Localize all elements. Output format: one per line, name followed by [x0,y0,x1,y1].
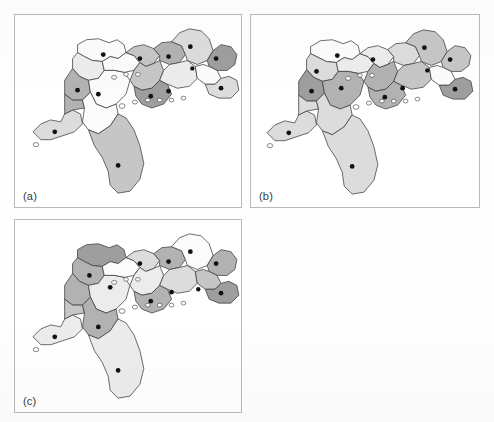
map-islet-b-7 [346,76,351,80]
figure-panel-c: (c) [14,219,242,413]
map-centroid-marker [314,69,319,74]
map-islet-c-3 [145,303,150,307]
map-centroid-marker [52,129,57,134]
map-centroid-marker [196,287,200,291]
map-centroid-marker [286,130,291,135]
map-islet-c-2 [132,305,137,309]
map-centroid-marker [188,249,193,254]
panel-label-c: (c) [23,395,36,407]
map-centroid-marker [214,261,219,266]
map-islet-c-1 [119,309,125,314]
map-islet-a-4 [157,98,162,102]
figure-panel-b: (b) [250,14,480,208]
map-centroid-marker [188,44,193,49]
panel-label-a: (a) [23,190,37,202]
map-centroid-marker [400,86,405,91]
map-islet-c-10 [33,348,39,352]
map-centroid-marker [350,164,355,169]
map-islet-c-4 [157,303,162,307]
figure-caption-strip [14,414,480,422]
map-centroid-marker [219,291,224,296]
map-islet-a-8 [124,73,129,77]
map-islet-b-3 [379,99,384,103]
map-centroid-marker [309,89,314,94]
map-centroid-marker [382,95,387,100]
map-centroid-marker [101,52,106,57]
panel-label-b: (b) [259,190,273,202]
map-centroid-marker [116,163,121,168]
map-islet-b-10 [267,144,273,148]
map-islet-c-7 [112,280,117,284]
map-islet-b-1 [353,105,359,110]
map-islet-b-8 [358,73,363,77]
map-region-b-15 [267,111,316,141]
map-centroid-marker [422,45,427,50]
map-centroid-marker [87,273,92,278]
map-centroid-marker [96,92,101,97]
map-islet-b-2 [366,101,371,105]
map-islet-c-5 [169,303,174,307]
map-centroid-marker [166,54,171,59]
map-islet-b-9 [370,73,375,77]
map-centroid-marker [425,68,429,72]
map-region-c-15 [33,315,82,345]
map-region-a-15 [33,110,82,140]
map-islet-b-4 [391,99,396,103]
map-centroid-marker [148,94,153,99]
map-centroid-marker [148,299,153,304]
map-islet-c-8 [124,278,129,282]
map-islet-c-9 [136,278,141,282]
map-islet-c-6 [181,301,186,305]
map-centroid-marker [138,56,143,61]
map-centroid-marker [453,87,458,92]
choropleth-map-a [15,15,241,207]
map-islet-b-6 [415,97,420,101]
map-centroid-marker [166,89,171,94]
map-centroid-marker [75,88,80,93]
map-centroid-marker [138,261,143,266]
map-centroid-marker [219,86,224,91]
map-centroid-marker [335,53,340,58]
map-islet-a-1 [119,104,125,109]
map-centroid-marker [116,368,121,373]
map-islet-a-6 [181,96,186,100]
map-islet-a-9 [136,73,141,77]
map-centroid-marker [96,325,101,330]
map-centroid-marker [108,285,113,290]
figure-sheet: (a) [0,0,494,422]
figure-panel-a: (a) [14,14,242,208]
map-centroid-marker [214,56,219,61]
map-centroid-marker [166,259,171,264]
map-islet-a-2 [132,100,137,104]
choropleth-map-c [15,220,241,412]
map-centroid-marker [371,57,376,62]
map-islet-a-3 [145,98,150,102]
map-centroid-marker [339,86,344,91]
map-islet-a-5 [169,98,174,102]
map-islet-b-5 [403,99,408,103]
choropleth-map-b [251,15,479,207]
map-centroid-marker [190,66,194,70]
map-islet-a-10 [33,143,39,147]
map-centroid-marker [52,334,57,339]
map-centroid-marker [448,57,453,62]
map-centroid-marker [169,290,174,295]
map-islet-a-7 [112,75,117,79]
